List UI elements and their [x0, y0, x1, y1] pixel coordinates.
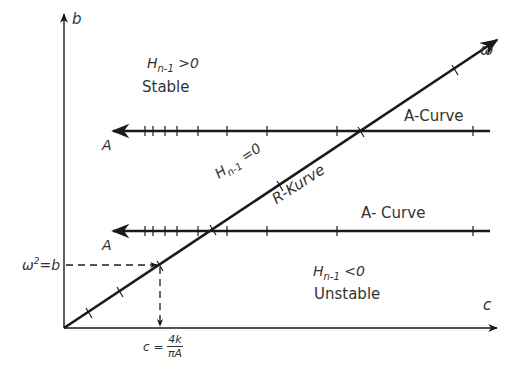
c-value-label: c = 4k πA: [143, 334, 183, 359]
lower-a-curve-label: A- Curve: [361, 206, 425, 221]
y-axis-label: b: [72, 12, 82, 27]
lower-a-arrow-label: A: [102, 238, 112, 252]
stable-condition: Hn-1 >0: [147, 56, 199, 74]
omega-label: ω: [480, 42, 493, 58]
stable-label: Stable: [142, 80, 190, 95]
upper-a-curve-label: A-Curve: [404, 109, 464, 124]
unstable-label: Unstable: [314, 287, 380, 302]
c-fraction: 4k πA: [167, 334, 182, 359]
upper-a-arrow-label: A: [102, 138, 112, 152]
unstable-condition: Hn-1 <0: [313, 264, 365, 282]
lower-a-curve: [113, 226, 490, 236]
stability-diagram: [0, 0, 517, 385]
upper-a-curve: [113, 126, 490, 136]
x-axis-label: c: [483, 298, 491, 313]
omega-squared-label: ω2=b: [22, 257, 60, 272]
